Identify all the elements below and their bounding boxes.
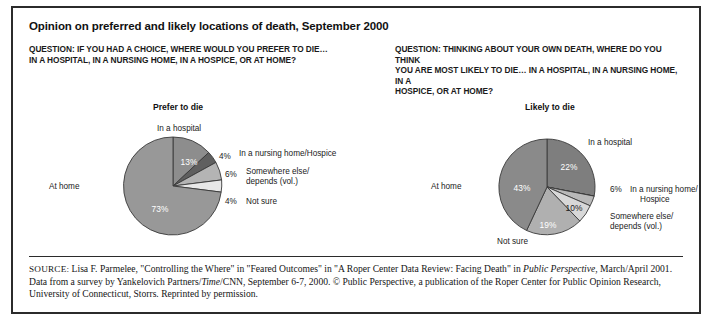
question-right-line-2: YOU ARE MOST LIKELY TO DIE… IN A HOSPITA… bbox=[395, 65, 685, 86]
source-italic-time: Time bbox=[201, 276, 220, 287]
pie-value-callout-prefer-nursing-home: 4% bbox=[219, 152, 231, 162]
question-right-line-3: HOSPICE, OR AT HOME? bbox=[395, 86, 685, 97]
pie-label-prefer-nursing-home-hospice: In a nursing home/Hospice bbox=[239, 149, 336, 159]
pie-value-likely-in-a-hospital: 22% bbox=[561, 162, 578, 172]
pie-label-likely-in-a-hospital: In a hospital bbox=[588, 138, 632, 148]
pie-value-callout-likely-nursing-home: 6% bbox=[610, 185, 622, 195]
pie-title-prefer-to-die: Prefer to die bbox=[153, 102, 203, 112]
pie-label-prefer-not-sure: Not sure bbox=[246, 197, 277, 207]
source-note: SOURCE: Lisa F. Parmelee, "Controlling t… bbox=[29, 263, 685, 301]
pie-label-likely-nursing-home-line1: In a nursing home/ bbox=[630, 185, 698, 195]
pie-title-likely-to-die: Likely to die bbox=[525, 102, 575, 112]
pie-value-prefer-in-a-hospital: 13% bbox=[181, 157, 198, 167]
pie-label-likely-somewhere-else-line2: depends (vol.) bbox=[610, 222, 673, 232]
pie-label-likely-somewhere-else-line1: Somewhere else/ bbox=[610, 212, 673, 222]
pie-chart-prefer-to-die: 13% 73% bbox=[118, 123, 248, 243]
pie-svg-prefer: 13% 73% bbox=[118, 123, 248, 243]
source-label: SOURCE: bbox=[29, 264, 69, 274]
pie-value-likely-at-home: 43% bbox=[514, 183, 531, 193]
question-right-line-1: QUESTION: THINKING ABOUT YOUR OWN DEATH,… bbox=[395, 44, 685, 65]
source-divider bbox=[29, 256, 683, 257]
question-left-line-2: IN A HOSPITAL, IN A NURSING HOME, IN A H… bbox=[29, 55, 359, 66]
figure-inner: Opinion on preferred and likely location… bbox=[13, 8, 699, 312]
question-prompt-right: QUESTION: THINKING ABOUT YOUR OWN DEATH,… bbox=[395, 44, 685, 97]
pie-label-likely-at-home: At home bbox=[431, 182, 462, 192]
pie-label-prefer-somewhere-else-line1: Somewhere else/ bbox=[246, 167, 309, 177]
pie-value-prefer-at-home: 73% bbox=[152, 204, 169, 214]
pie-label-likely-nursing-home-hospice: In a nursing home/ Hospice bbox=[630, 185, 698, 205]
question-left-line-1: QUESTION: IF YOU HAD A CHOICE, WHERE WOU… bbox=[29, 44, 359, 55]
pie-label-likely-nursing-home-line2: Hospice bbox=[630, 195, 698, 205]
question-prompt-left: QUESTION: IF YOU HAD A CHOICE, WHERE WOU… bbox=[29, 44, 359, 65]
pie-label-likely-somewhere-else: Somewhere else/ depends (vol.) bbox=[610, 212, 673, 232]
pie-label-prefer-in-a-hospital: In a hospital bbox=[157, 124, 201, 134]
pie-label-prefer-somewhere-else: Somewhere else/ depends (vol.) bbox=[246, 167, 309, 187]
source-text-1: Lisa F. Parmelee, "Controlling the Where… bbox=[69, 263, 523, 274]
pie-label-prefer-somewhere-else-line2: depends (vol.) bbox=[246, 177, 309, 187]
pie-value-callout-prefer-not-sure: 4% bbox=[225, 197, 237, 207]
figure-frame: Opinion on preferred and likely location… bbox=[11, 6, 701, 314]
page-title: Opinion on preferred and likely location… bbox=[29, 20, 389, 32]
pie-label-prefer-at-home: At home bbox=[49, 182, 80, 192]
source-italic-publication: Public Perspective bbox=[523, 263, 595, 274]
pie-value-likely-somewhere-else: 10% bbox=[566, 203, 583, 213]
pie-label-likely-not-sure: Not sure bbox=[497, 237, 528, 247]
pie-value-callout-prefer-somewhere-else: 6% bbox=[225, 170, 237, 180]
pie-value-likely-not-sure: 19% bbox=[540, 220, 557, 230]
